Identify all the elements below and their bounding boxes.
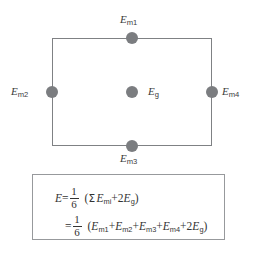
formula-line-2: = 1 6 (Em1+Em2+Em3+Em4+2Eg) bbox=[65, 214, 207, 239]
eq1-denominator: 6 bbox=[70, 199, 78, 211]
eq1-g-var: E bbox=[124, 192, 131, 204]
formula-line-1: E = 1 6 (ΣEmi+2Eg) bbox=[55, 186, 139, 211]
node-label-m4-var: E bbox=[222, 85, 229, 97]
node-dot-m4 bbox=[206, 86, 218, 98]
eq1-fraction: 1 6 bbox=[70, 186, 79, 211]
node-label-m3-sub: m3 bbox=[127, 157, 138, 166]
figure-container: Em1 Em2 Em3 Em4 Eg E = 1 6 (ΣEmi+2Eg) = … bbox=[0, 0, 257, 253]
eq2-t3-sub: m3 bbox=[146, 225, 156, 234]
eq1-g-sub: g bbox=[131, 197, 135, 206]
eq2-t4-sub: m4 bbox=[170, 225, 180, 234]
node-label-m1-sub: m1 bbox=[127, 18, 138, 27]
node-label-m2: Em2 bbox=[11, 86, 28, 97]
node-label-m2-var: E bbox=[11, 85, 18, 97]
eq2-g-sub: g bbox=[199, 225, 203, 234]
eq1-sum-var: E bbox=[97, 192, 104, 204]
node-label-m1-var: E bbox=[120, 13, 127, 25]
eq2-numerator: 1 bbox=[73, 214, 81, 226]
eq2-t3-var: E bbox=[139, 220, 146, 232]
eq2-t2-sub: m2 bbox=[122, 225, 132, 234]
eq1-sum-sub: mi bbox=[104, 197, 112, 206]
node-label-m2-sub: m2 bbox=[18, 90, 29, 99]
eq1-paren-group: (ΣEmi+2Eg) bbox=[85, 193, 139, 205]
node-label-m3-var: E bbox=[120, 152, 127, 164]
eq2-close-paren: ) bbox=[204, 220, 208, 232]
node-dot-m1 bbox=[126, 32, 138, 44]
node-label-g: Eg bbox=[148, 86, 159, 97]
eq2-fraction: 1 6 bbox=[73, 214, 82, 239]
eq1-close-paren: ) bbox=[135, 192, 139, 204]
eq2-equals: = bbox=[65, 221, 72, 233]
eq2-paren-group: (Em1+Em2+Em3+Em4+2Eg) bbox=[88, 221, 208, 233]
eq1-numerator: 1 bbox=[70, 186, 78, 198]
node-label-m1: Em1 bbox=[120, 14, 137, 25]
eq1-equals: = bbox=[62, 193, 69, 205]
rectangle-diagram: Em1 Em2 Em3 Em4 Eg bbox=[0, 0, 257, 160]
eq2-t4-var: E bbox=[163, 220, 170, 232]
sigma-icon: Σ bbox=[88, 192, 95, 204]
node-dot-m2 bbox=[46, 86, 58, 98]
eq1-lhs: E bbox=[55, 192, 62, 204]
node-label-g-sub: g bbox=[155, 90, 159, 99]
node-label-m3: Em3 bbox=[120, 153, 137, 164]
node-label-m4-sub: m4 bbox=[229, 90, 240, 99]
node-dot-m3 bbox=[126, 140, 138, 152]
node-label-g-var: E bbox=[148, 85, 155, 97]
eq2-denominator: 6 bbox=[73, 227, 81, 239]
eq2-t1-sub: m1 bbox=[98, 225, 108, 234]
formula-box: E = 1 6 (ΣEmi+2Eg) = 1 6 (Em1+Em2+Em3+Em… bbox=[32, 174, 225, 240]
node-label-m4: Em4 bbox=[222, 86, 239, 97]
node-dot-g bbox=[126, 86, 138, 98]
